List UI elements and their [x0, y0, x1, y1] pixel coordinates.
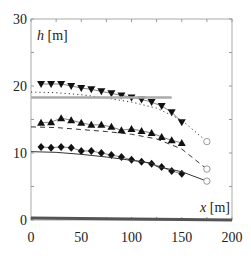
triangle-up-marker — [128, 125, 136, 132]
x-tick-label: 150 — [171, 230, 192, 245]
open-circle-marker — [204, 138, 210, 144]
y-axis-label: h [m] — [37, 28, 68, 43]
diamond-marker — [168, 167, 175, 175]
x-axis-label: x [m] — [199, 200, 230, 215]
series-measured-low — [38, 143, 186, 178]
diamond-marker — [48, 144, 55, 152]
y-tick-label: 20 — [13, 79, 27, 94]
y-tick-label: 10 — [13, 146, 27, 161]
series-bed — [31, 218, 232, 220]
triangle-up-marker — [168, 136, 176, 143]
diamond-marker — [38, 143, 45, 151]
triangle-down-marker — [47, 81, 55, 88]
triangle-down-marker — [148, 99, 156, 106]
x-tick-label: 50 — [74, 230, 88, 245]
chart: 0501001502000102030 h [m] x [m] — [0, 0, 251, 256]
series-measured-mid — [37, 114, 186, 146]
triangle-up-marker — [47, 118, 55, 125]
y-tick-label: 30 — [13, 12, 27, 27]
triangle-up-marker — [97, 121, 105, 128]
x-tick-label: 200 — [222, 230, 243, 245]
triangle-down-marker — [178, 119, 186, 126]
triangle-down-marker — [158, 103, 166, 110]
triangle-up-marker — [57, 114, 65, 121]
x-tick-label: 100 — [121, 230, 142, 245]
diamond-marker — [148, 160, 155, 168]
diamond-marker — [58, 143, 65, 151]
x-tick-label: 0 — [28, 230, 35, 245]
bed-line — [31, 218, 232, 220]
diamond-marker — [68, 144, 75, 152]
triangle-up-marker — [158, 133, 166, 140]
series-computed-high — [31, 92, 207, 142]
dotted-line — [31, 92, 207, 142]
open-circle-marker — [204, 178, 210, 184]
diamond-marker — [88, 147, 95, 155]
series-downstream-end — [204, 138, 210, 184]
triangle-down-marker — [37, 81, 45, 88]
y-tick-label: 0 — [20, 213, 27, 228]
open-circle-marker — [204, 166, 210, 172]
